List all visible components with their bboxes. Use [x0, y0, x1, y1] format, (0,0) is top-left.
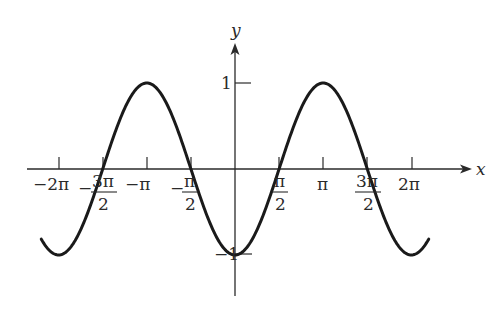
x-tick-label-neg-pi: −π: [125, 174, 150, 194]
x-axis-label: x: [476, 159, 486, 179]
chart-canvas: x y 1 −1 −2π − 3π 2 −π − π 2 π 2 π 3π 2 …: [0, 0, 503, 312]
x-tick-label-neg-pi-2: − π 2: [170, 171, 198, 214]
svg-text:−: −: [78, 178, 92, 198]
svg-text:π: π: [274, 171, 285, 191]
x-tick-label-3pi-2: 3π 2: [355, 171, 381, 214]
y-tick-label-neg1: −1: [214, 244, 239, 264]
x-tick-label-pi-2: π 2: [272, 171, 288, 214]
svg-text:2: 2: [363, 194, 374, 214]
svg-text:2: 2: [275, 194, 286, 214]
y-axis-label: y: [230, 20, 241, 40]
svg-text:3π: 3π: [356, 171, 378, 191]
x-tick-label-pi: π: [317, 174, 328, 194]
x-tick-label-2pi: 2π: [398, 174, 420, 194]
y-tick-label-1: 1: [221, 73, 232, 93]
svg-text:3π: 3π: [92, 171, 114, 191]
x-tick-label-neg-3pi-2: − 3π 2: [78, 171, 117, 214]
x-tick-label-neg-2pi: −2π: [33, 174, 69, 194]
svg-text:2: 2: [98, 194, 109, 214]
svg-text:2: 2: [185, 194, 196, 214]
svg-text:π: π: [184, 171, 195, 191]
svg-text:−: −: [170, 178, 184, 198]
